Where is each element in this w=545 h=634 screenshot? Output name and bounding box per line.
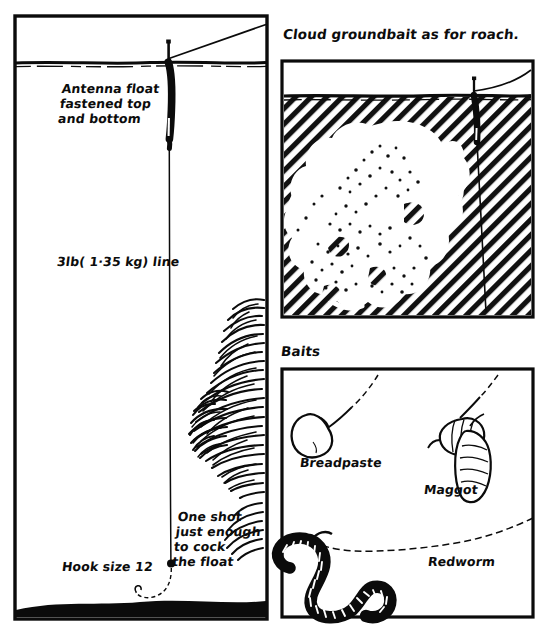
redworm-label: Redworm [427,554,496,569]
breadpaste-label: Breadpaste [299,455,383,470]
antenna-float-label-line3: and bottom [57,111,142,126]
baits-heading: Baits [280,345,321,360]
figure-root: Antenna floatfastened topand bottom 3lb(… [0,0,545,634]
baits-panel [278,369,533,618]
hook-size-label: Hook size 12 [61,559,154,574]
cloud-groundbait-panel [282,61,533,317]
one-shot-label: One shotjust enoughto cockthe float [171,509,263,569]
antenna-float-label-line1: Antenna float [61,81,160,96]
one-shot-label-line2: just enough [175,524,262,539]
maggot-label: Maggot [423,482,479,497]
cloud-groundbait-heading: Cloud groundbait as for roach. [282,28,520,43]
antenna-float-label: Antenna floatfastened topand bottom [57,81,160,126]
one-shot-label-line1: One shot [177,509,243,524]
line-strength-label: 3lb( 1·35 kg) line [56,254,180,269]
one-shot-label-line4: the float [171,554,234,569]
antenna-float-label-line2: fastened top [59,96,152,111]
one-shot-label-line3: to cock [173,539,226,554]
